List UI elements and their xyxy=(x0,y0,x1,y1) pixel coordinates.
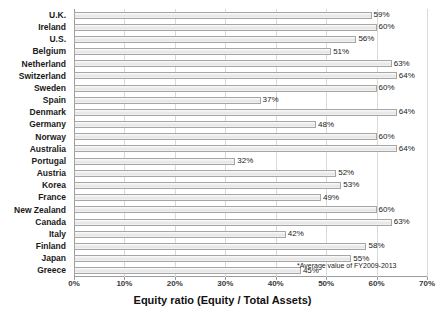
footnote-annotation: *Average value of FY2009-2013 xyxy=(297,262,397,269)
y-axis-label-norway: Norway xyxy=(0,131,70,143)
bar-denmark: 64% xyxy=(74,109,397,116)
bar-row: 60% xyxy=(74,204,427,216)
bar-japan: 55% xyxy=(74,255,351,262)
bar-value-label: 59% xyxy=(374,11,390,19)
bar-spain: 37% xyxy=(74,97,261,104)
x-tick-label-60%: 60% xyxy=(369,279,385,288)
bar-belgium: 51% xyxy=(74,48,331,55)
y-axis-label-japan: Japan xyxy=(0,252,70,264)
bar-row: 37% xyxy=(74,94,427,106)
y-axis-label-france: France xyxy=(0,192,70,204)
x-axis-title: Equity ratio (Equity / Total Assets) xyxy=(0,294,445,306)
y-axis-label-austria: Austria xyxy=(0,167,70,179)
bar-value-label: 60% xyxy=(379,23,395,31)
y-axis-label-new-zealand: New Zealand xyxy=(0,204,70,216)
bar-germany: 48% xyxy=(74,121,316,128)
y-axis-label-korea: Korea xyxy=(0,179,70,191)
bar-row: 53% xyxy=(74,179,427,191)
y-axis-label-spain: Spain xyxy=(0,94,70,106)
x-tick-label-70%: 70% xyxy=(419,279,435,288)
bar-row: 64% xyxy=(74,143,427,155)
bar-value-label: 64% xyxy=(399,145,415,153)
bar-row: 59% xyxy=(74,9,427,21)
bar-u-s: 56% xyxy=(74,36,356,43)
x-tick-label-20%: 20% xyxy=(167,279,183,288)
bar-sweden: 60% xyxy=(74,85,377,92)
bar-switzerland: 64% xyxy=(74,72,397,79)
y-axis-label-finland: Finland xyxy=(0,240,70,252)
y-axis-label-canada: Canada xyxy=(0,216,70,228)
bar-value-label: 48% xyxy=(318,121,334,129)
bar-value-label: 51% xyxy=(333,48,349,56)
bar-value-label: 63% xyxy=(394,60,410,68)
bar-value-label: 49% xyxy=(323,194,339,202)
y-axis-label-italy: Italy xyxy=(0,228,70,240)
bar-value-label: 53% xyxy=(343,181,359,189)
bar-value-label: 37% xyxy=(263,96,279,104)
bar-value-label: 64% xyxy=(399,108,415,116)
bar-row: 32% xyxy=(74,155,427,167)
bar-row: 42% xyxy=(74,228,427,240)
bar-italy: 42% xyxy=(74,231,286,238)
bar-row: 60% xyxy=(74,21,427,33)
bar-greece: 45% xyxy=(74,267,301,274)
y-axis-label-belgium: Belgium xyxy=(0,46,70,58)
bar-value-label: 63% xyxy=(394,218,410,226)
bar-korea: 53% xyxy=(74,182,341,189)
bar-value-label: 56% xyxy=(358,35,374,43)
x-tick-mark-70% xyxy=(427,277,428,280)
bar-row: 58% xyxy=(74,240,427,252)
bar-row: 48% xyxy=(74,119,427,131)
bar-row: 60% xyxy=(74,131,427,143)
y-axis-label-u-k: U.K. xyxy=(0,9,70,21)
x-tick-mark-20% xyxy=(175,277,176,280)
bar-australia: 64% xyxy=(74,145,397,152)
bar-value-label: 52% xyxy=(338,169,354,177)
equity-ratio-bar-chart: U.K.IrelandU.S.BelgiumNetherlandSwitzerl… xyxy=(0,0,445,322)
bar-row: 63% xyxy=(74,216,427,228)
y-axis-labels: U.K.IrelandU.S.BelgiumNetherlandSwitzerl… xyxy=(0,9,70,277)
bar-ireland: 60% xyxy=(74,24,377,31)
bar-row: 51% xyxy=(74,46,427,58)
gridline-70% xyxy=(427,9,428,277)
x-axis-tick-labels: 0%10%20%30%40%50%60%70% xyxy=(74,279,427,293)
bar-value-label: 60% xyxy=(379,206,395,214)
bar-portugal: 32% xyxy=(74,158,235,165)
y-axis-label-greece: Greece xyxy=(0,265,70,277)
bar-row: 64% xyxy=(74,70,427,82)
bar-u-k: 59% xyxy=(74,12,372,19)
x-tick-mark-50% xyxy=(326,277,327,280)
bar-row: 52% xyxy=(74,167,427,179)
bar-value-label: 60% xyxy=(379,84,395,92)
y-axis-label-netherland: Netherland xyxy=(0,58,70,70)
y-axis-label-sweden: Sweden xyxy=(0,82,70,94)
x-tick-mark-40% xyxy=(276,277,277,280)
y-axis-label-denmark: Denmark xyxy=(0,106,70,118)
bar-austria: 52% xyxy=(74,170,336,177)
bar-value-label: 58% xyxy=(368,242,384,250)
bar-norway: 60% xyxy=(74,133,377,140)
bar-row: 64% xyxy=(74,106,427,118)
x-tick-label-30%: 30% xyxy=(217,279,233,288)
x-tick-label-0%: 0% xyxy=(68,279,80,288)
x-tick-mark-30% xyxy=(225,277,226,280)
bar-france: 49% xyxy=(74,194,321,201)
x-tick-mark-10% xyxy=(124,277,125,280)
bar-value-label: 64% xyxy=(399,72,415,80)
y-axis-label-u-s: U.S. xyxy=(0,33,70,45)
y-axis-label-australia: Australia xyxy=(0,143,70,155)
bar-finland: 58% xyxy=(74,243,366,250)
y-axis-label-ireland: Ireland xyxy=(0,21,70,33)
bar-canada: 63% xyxy=(74,219,392,226)
x-tick-label-40%: 40% xyxy=(268,279,284,288)
bar-value-label: 60% xyxy=(379,133,395,141)
bar-rows: 59%60%56%51%63%64%60%37%64%48%60%64%32%5… xyxy=(74,9,427,277)
x-tick-label-50%: 50% xyxy=(318,279,334,288)
bar-new-zealand: 60% xyxy=(74,206,377,213)
x-tick-label-10%: 10% xyxy=(116,279,132,288)
x-tick-mark-0% xyxy=(74,277,75,280)
bar-netherland: 63% xyxy=(74,60,392,67)
x-tick-mark-60% xyxy=(377,277,378,280)
bar-row: 63% xyxy=(74,58,427,70)
plot-area: 59%60%56%51%63%64%60%37%64%48%60%64%32%5… xyxy=(74,9,427,277)
